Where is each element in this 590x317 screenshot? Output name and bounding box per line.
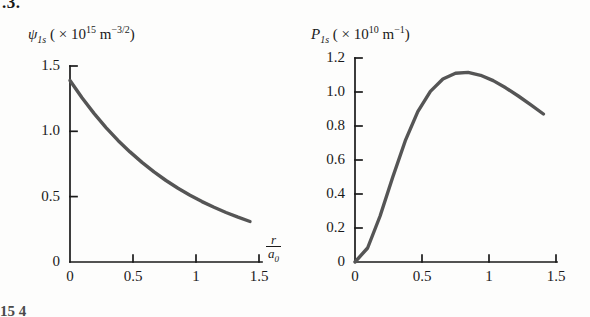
p-ytick-1: 0.2 — [307, 219, 345, 236]
cropped-bottom-text: 15 4 — [0, 303, 26, 317]
p-ytick-3: 0.6 — [307, 151, 345, 168]
psi-ytick-2: 1.0 — [22, 122, 60, 139]
chart-panel-p: P1s ( × 1010 m−1) — [295, 0, 590, 317]
psi-curve — [70, 81, 250, 222]
psi-ytick-3: 1.5 — [22, 57, 60, 74]
p-ytick-4: 0.8 — [307, 117, 345, 134]
p-curve — [355, 72, 543, 262]
figure-canvas: .3. ψ1s ( × 1015 m−3/2) 1.5 — [0, 0, 590, 317]
psi-xaxis-label-fraction: r a0 — [266, 233, 281, 264]
psi-xtick-0: 0 — [56, 268, 84, 285]
psi-ytick-1: 0.5 — [22, 188, 60, 205]
p-xtick-0: 0 — [341, 268, 369, 285]
psi-xtick-1: 0.5 — [113, 268, 153, 285]
psi-xaxis-numerator: r — [266, 233, 281, 246]
p-xtick-2: 1 — [475, 268, 503, 285]
p-xtick-3: 1.5 — [536, 268, 576, 285]
p-ytick-0: 0 — [307, 253, 345, 270]
p-xtick-1: 0.5 — [402, 268, 442, 285]
p-ytick-2: 0.4 — [307, 185, 345, 202]
p-ytick-6: 1.2 — [307, 49, 345, 66]
psi-xtick-2: 1 — [182, 268, 210, 285]
p-axes — [355, 58, 557, 262]
psi-xtick-3: 1.5 — [239, 268, 279, 285]
psi-xaxis-denominator: a0 — [266, 246, 281, 264]
psi-ytick-0: 0 — [22, 253, 60, 270]
chart-panel-psi: ψ1s ( × 1015 m−3/2) 1.5 1.0 0.5 0 — [0, 0, 295, 317]
p-ytick-5: 1.0 — [307, 83, 345, 100]
psi-axes — [70, 66, 262, 262]
